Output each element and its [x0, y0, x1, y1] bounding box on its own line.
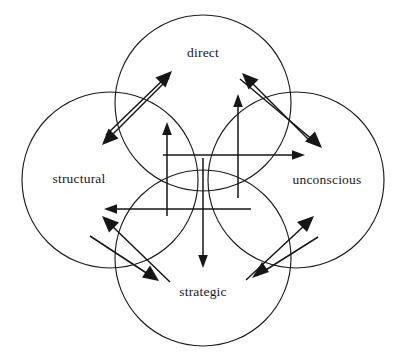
circle-left [22, 92, 198, 268]
label-strategic: strategic [179, 284, 227, 299]
arrow-structural-to-direct [106, 71, 172, 135]
arrow-down-axis [198, 158, 208, 268]
label-unconscious: unconscious [293, 172, 362, 187]
axis-arrow-group [104, 94, 305, 268]
arrow-strategic-to-unconscious [246, 216, 314, 280]
arrow-left-axis [104, 204, 251, 214]
venn-diagram: direct structural unconscious strategic [0, 0, 407, 353]
arrow-up-left-axis [162, 122, 172, 216]
arrow-unconscious-to-direct [242, 73, 309, 140]
arrow-direct-to-unconscious [240, 79, 322, 148]
arrow-strategic-to-structural [102, 216, 170, 282]
arrow-direct-to-structural [102, 78, 169, 145]
label-structural: structural [53, 171, 106, 186]
label-group: direct structural unconscious strategic [53, 45, 362, 299]
diagonal-arrow-group [90, 71, 322, 282]
arrow-right-axis [163, 150, 305, 160]
venn-diagram-canvas: direct structural unconscious strategic [0, 0, 407, 353]
label-direct: direct [187, 45, 219, 60]
